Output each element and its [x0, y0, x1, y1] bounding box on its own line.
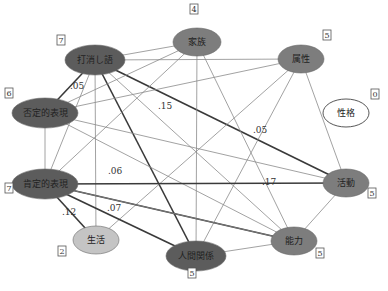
node-koutei: 肯定的表現7 [5, 169, 78, 199]
edge-uchikeshi-ningen [95, 60, 196, 256]
edge-uchikeshi-zokusei [95, 59, 301, 60]
edge-hitei-katsudou [45, 113, 346, 183]
node-uchikeshi: 打消し語7 [57, 35, 125, 75]
edge-weight-label: .07 [107, 203, 122, 213]
node-label: 属性 [292, 53, 310, 64]
edge-labels-layer: .05.15.05.17.06.07.12 [62, 81, 277, 217]
node-katsudou: 活動5 [323, 169, 376, 198]
node-degree: 6 [6, 89, 11, 98]
edge-uchikeshi-seikatsu [95, 60, 96, 240]
edge-weight-label: .17 [262, 177, 277, 187]
node-degree: 7 [6, 184, 11, 193]
edge-weight-label: .15 [158, 101, 173, 111]
node-degree: 4 [191, 5, 196, 14]
node-degree: 5 [324, 31, 329, 40]
node-ningen: 人間関係5 [166, 241, 226, 278]
edge-weight-label: .06 [108, 166, 123, 176]
node-degree: 7 [58, 36, 63, 45]
node-kazoku: 家族4 [173, 4, 221, 56]
edge-koutei-katsudou [45, 183, 346, 184]
edge-weight-label: .12 [62, 207, 76, 217]
network-diagram: .05.15.05.17.06.07.12 打消し語7家族4属性5性格0否定的表… [0, 0, 388, 291]
node-label: 否定的表現 [23, 107, 68, 118]
edge-zokusei-seikatsu [96, 59, 301, 240]
node-degree: 5 [369, 189, 374, 198]
node-label: 打消し語 [77, 54, 113, 65]
node-label: 性格 [337, 107, 355, 118]
node-label: 肯定的表現 [23, 178, 68, 189]
node-seikatsu: 生活2 [58, 226, 119, 256]
edge-uchikeshi-nouryoku [95, 60, 294, 241]
node-degree: 5 [189, 269, 194, 278]
edge-kazoku-nouryoku [197, 42, 294, 241]
node-nouryoku: 能力5 [271, 227, 324, 258]
node-label: 家族 [188, 36, 206, 47]
node-label: 生活 [87, 234, 105, 245]
edge-weight-label: .05 [253, 125, 268, 135]
node-degree: 0 [372, 90, 377, 99]
nodes-layer: 打消し語7家族4属性5性格0否定的表現6肯定的表現7活動5生活2人間関係5能力5 [5, 4, 379, 278]
node-zokusei: 属性5 [278, 30, 331, 73]
node-degree: 5 [317, 249, 322, 258]
node-seikaku: 性格0 [323, 89, 379, 127]
node-label: 能力 [285, 235, 303, 246]
edge-zokusei-ningen [196, 59, 301, 256]
node-label: 活動 [337, 177, 355, 188]
edge-weight-label: .05 [70, 81, 85, 91]
edge-kazoku-ningen [196, 42, 197, 256]
node-label: 人間関係 [178, 251, 214, 261]
node-degree: 2 [59, 247, 64, 256]
node-hitei: 否定的表現6 [5, 88, 78, 128]
